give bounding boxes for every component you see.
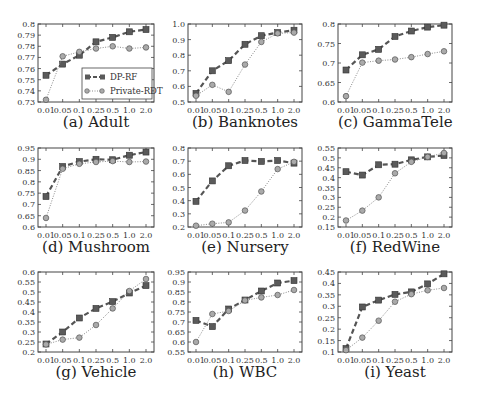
axes-frame <box>338 272 452 352</box>
private-rdt-marker <box>226 89 232 95</box>
y-tick-label: 0.5 <box>172 184 185 193</box>
y-tick-label: 0.9 <box>172 36 185 45</box>
dp-rf-marker <box>193 317 199 323</box>
private-rdt-marker <box>242 298 248 304</box>
private-rdt-marker <box>441 150 447 156</box>
private-rdt-marker <box>77 335 83 341</box>
y-tick-label: 0.4 <box>322 174 335 183</box>
private-rdt-marker <box>226 220 232 226</box>
dp-rf-marker <box>376 297 382 303</box>
dp-rf-marker <box>392 33 398 39</box>
private-rdt-marker <box>143 276 149 282</box>
private-rdt-marker <box>376 58 382 64</box>
private-rdt-marker <box>409 291 415 297</box>
dp-rf-marker <box>343 67 349 73</box>
y-tick-label: 0.45 <box>317 164 335 173</box>
dp-rf-marker <box>209 178 215 184</box>
private-rdt-marker <box>425 51 431 57</box>
y-tick-label: 0.7 <box>172 318 185 327</box>
dp-rf-marker <box>242 41 248 47</box>
y-tick-label: 0.45 <box>17 298 35 307</box>
y-tick-label: 0.79 <box>17 31 35 40</box>
y-tick-label: 0.7 <box>322 59 335 68</box>
y-tick-label: 0.75 <box>17 76 35 85</box>
caption-adult: (a) Adult <box>38 113 154 131</box>
y-tick-label: 0.55 <box>317 144 335 153</box>
y-tick-label: 0.25 <box>17 338 35 347</box>
y-tick-label: 0.75 <box>17 189 35 198</box>
dp-rf-marker <box>60 329 66 335</box>
dp-rf-marker <box>441 22 447 28</box>
private-rdt-marker <box>259 39 265 45</box>
dp-rf-marker <box>425 24 431 30</box>
dp-rf-marker <box>258 288 264 294</box>
y-tick-label: 0.5 <box>22 288 35 297</box>
dp-rf-marker <box>93 39 99 45</box>
dp-rf-marker <box>110 299 116 305</box>
y-tick-label: 0.8 <box>22 20 35 29</box>
private-rdt-marker <box>392 299 398 305</box>
private-rdt-marker <box>343 93 349 99</box>
y-tick-label: 0.95 <box>167 268 185 277</box>
private-rdt-marker <box>343 347 349 353</box>
dp-rf-marker <box>193 198 199 204</box>
y-tick-label: 0.3 <box>172 210 185 219</box>
dp-rf-marker <box>359 52 365 58</box>
y-tick-label: 0.75 <box>167 308 185 317</box>
dp-rf-marker <box>425 281 431 287</box>
subplot-nursery: 0.20.30.40.50.60.70.80.010.050.10.250.51… <box>188 148 302 227</box>
y-tick-label: 0.2 <box>22 348 35 357</box>
caption-yeast: (i) Yeast <box>338 363 452 381</box>
private-rdt-marker <box>376 318 382 324</box>
dp-rf-marker <box>376 46 382 52</box>
y-tick-label: 0.55 <box>17 278 35 287</box>
private-rdt-marker <box>143 45 149 51</box>
y-tick-label: 0.35 <box>317 184 335 193</box>
y-tick-label: 0.1 <box>322 348 335 357</box>
y-tick-label: 0.9 <box>172 278 185 287</box>
axes-frame <box>188 272 302 352</box>
y-tick-label: 0.6 <box>172 338 185 347</box>
y-tick-label: 0.9 <box>22 155 35 164</box>
dp-rf-marker <box>392 161 398 167</box>
y-tick-label: 0.8 <box>172 51 185 60</box>
private-rdt-marker <box>110 158 116 164</box>
private-rdt-marker <box>259 189 265 195</box>
y-tick-label: 0.45 <box>317 268 335 277</box>
dp-rf-marker <box>408 28 414 34</box>
dp-rf-marker <box>275 158 281 164</box>
private-rdt-marker <box>210 311 216 317</box>
private-rdt-marker <box>360 60 366 66</box>
subplot-yeast: 0.10.150.20.250.30.350.40.450.010.050.10… <box>338 272 452 352</box>
dp-rf-marker <box>93 305 99 311</box>
y-tick-label: 0.3 <box>322 302 335 311</box>
y-tick-label: 0.2 <box>322 325 335 334</box>
y-tick-label: 0.7 <box>172 67 185 76</box>
private-rdt-marker <box>360 208 366 214</box>
y-tick-label: 0.2 <box>322 213 335 222</box>
private-rdt-marker <box>110 43 116 49</box>
y-tick-label: 0.95 <box>17 144 35 153</box>
y-tick-label: 0.6 <box>172 82 185 91</box>
private-rdt-marker <box>93 159 99 165</box>
y-tick-label: 0.8 <box>322 20 335 29</box>
legend-label-private-rdt: Private-RDT <box>110 86 163 96</box>
y-tick-label: 0.4 <box>22 308 35 317</box>
dp-rf-marker <box>126 152 132 158</box>
y-tick-label: 0.3 <box>22 328 35 337</box>
y-tick-label: 0.55 <box>167 348 185 357</box>
y-tick-label: 0.78 <box>17 42 35 51</box>
series-dp-rf-line <box>196 281 294 327</box>
plot-area: 0.10.150.20.250.30.350.40.450.010.050.10… <box>338 272 452 352</box>
private-rdt-marker <box>193 223 199 229</box>
subplot-redwine: 0.150.20.250.30.350.40.450.50.550.010.05… <box>338 148 452 227</box>
caption-mushroom: (d) Mushroom <box>38 238 154 256</box>
private-rdt-marker <box>275 292 281 298</box>
dp-rf-marker <box>258 158 264 164</box>
private-rdt-marker <box>441 49 447 55</box>
plot-area: 0.150.20.250.30.350.40.450.50.550.010.05… <box>338 148 452 227</box>
private-rdt-marker <box>77 161 83 167</box>
private-rdt-marker <box>60 337 66 343</box>
private-rdt-marker <box>275 166 281 172</box>
private-rdt-marker <box>43 342 49 348</box>
